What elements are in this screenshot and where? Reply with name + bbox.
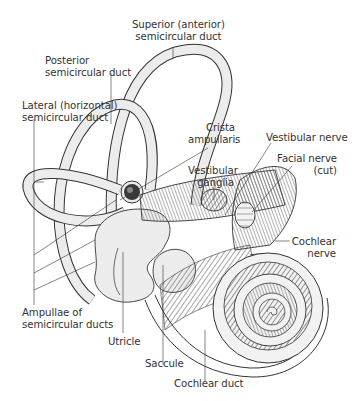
label-saccule: Saccule xyxy=(145,358,184,370)
label-line: Facial nerve xyxy=(270,153,337,165)
label-ampullae: Ampullae of semicircular ducts xyxy=(22,307,113,330)
label-superior-semicircular-duct: Superior (anterior) semicircular duct xyxy=(132,19,225,42)
label-line: Cochlear xyxy=(290,236,336,248)
label-line: Utricle xyxy=(108,336,140,348)
inner-ear-diagram: Superior (anterior) semicircular duct Po… xyxy=(0,0,355,401)
label-facial-nerve: Facial nerve (cut) xyxy=(270,153,337,176)
label-line: Vestibular nerve xyxy=(266,132,348,144)
label-line: Vestibular xyxy=(188,165,234,177)
label-line: semicircular ducts xyxy=(22,319,113,331)
label-cochlear-duct: Cochlear duct xyxy=(174,378,243,390)
label-line: ganglia xyxy=(188,177,234,189)
label-line: nerve xyxy=(290,248,336,260)
label-line: Ampullae of xyxy=(22,307,113,319)
label-line: Superior (anterior) xyxy=(132,19,225,31)
label-line: Posterior xyxy=(45,55,131,67)
facial-nerve-trunk xyxy=(232,166,296,250)
label-line: Saccule xyxy=(145,358,184,370)
label-lateral-semicircular-duct: Lateral (horizontal) semicircular duct xyxy=(22,100,117,123)
crista-ampullaris xyxy=(121,181,143,203)
label-line: (cut) xyxy=(270,165,337,177)
label-line: semicircular duct xyxy=(22,112,117,124)
label-line: Lateral (horizontal) xyxy=(22,100,117,112)
label-line: Crista xyxy=(188,122,235,134)
label-posterior-semicircular-duct: Posterior semicircular duct xyxy=(45,55,131,78)
label-vestibular-ganglia: Vestibular ganglia xyxy=(188,165,234,188)
label-line: semicircular duct xyxy=(45,67,131,79)
label-line: ampullaris xyxy=(188,134,235,146)
label-cochlear-nerve: Cochlear nerve xyxy=(290,236,336,259)
label-line: Cochlear duct xyxy=(174,378,243,390)
label-line: semicircular duct xyxy=(132,31,225,43)
label-utricle: Utricle xyxy=(108,336,140,348)
label-crista-ampullaris: Crista ampullaris xyxy=(188,122,235,145)
label-vestibular-nerve: Vestibular nerve xyxy=(266,132,348,144)
